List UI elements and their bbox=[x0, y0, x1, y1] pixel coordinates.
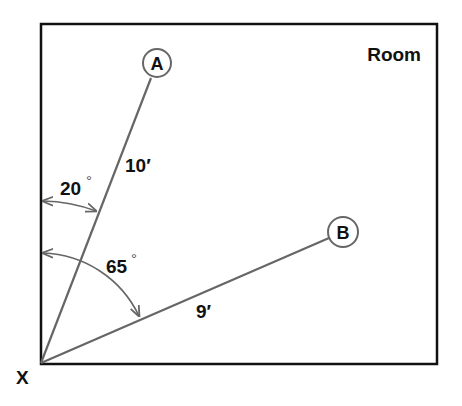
distance-a-label: 10′ bbox=[125, 155, 151, 176]
point-b-label: B bbox=[337, 223, 350, 243]
room-outline bbox=[41, 24, 437, 364]
room-label: Room bbox=[367, 44, 421, 65]
distance-b-label: 9′ bbox=[196, 301, 212, 322]
angle-a-value: 20 bbox=[60, 178, 81, 199]
ray-to-a bbox=[41, 78, 151, 363]
ray-to-b bbox=[41, 238, 329, 363]
origin-label: X bbox=[16, 367, 29, 388]
point-a-marker: A bbox=[143, 49, 171, 77]
angle-b-degree-symbol: ° bbox=[131, 250, 137, 267]
angle-arc-20 bbox=[43, 201, 96, 211]
point-a-label: A bbox=[151, 54, 164, 74]
angle-b-value: 65 bbox=[106, 256, 128, 277]
angle-a-degree-symbol: ° bbox=[86, 172, 92, 189]
point-b-marker: B bbox=[328, 217, 358, 247]
room-diagram: A B Room X 10′ 9′ 20 ° 65 ° bbox=[0, 0, 462, 406]
